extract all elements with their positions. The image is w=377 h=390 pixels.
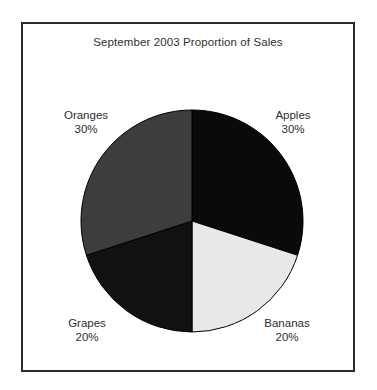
pie-label-oranges-name: Oranges	[64, 109, 108, 121]
pie-svg	[80, 109, 304, 333]
pie-label-bananas-name: Bananas	[264, 317, 309, 329]
pie-label-oranges: Oranges 30%	[44, 108, 128, 136]
chart-frame: September 2003 Proportion of Sales Orang…	[21, 22, 355, 372]
pie-label-apples-name: Apples	[275, 109, 310, 121]
pie-chart: Oranges 30% Apples 30% Grapes 20% Banana…	[23, 24, 353, 370]
pie-label-apples-percent: 30%	[251, 122, 335, 136]
pie-label-grapes: Grapes 20%	[45, 316, 129, 344]
pie-label-grapes-percent: 20%	[45, 330, 129, 344]
pie-label-apples: Apples 30%	[251, 108, 335, 136]
pie-label-grapes-name: Grapes	[68, 317, 106, 329]
pie-label-bananas-percent: 20%	[239, 330, 335, 344]
pie-label-oranges-percent: 30%	[44, 122, 128, 136]
pie-label-bananas: Bananas 20%	[239, 316, 335, 344]
